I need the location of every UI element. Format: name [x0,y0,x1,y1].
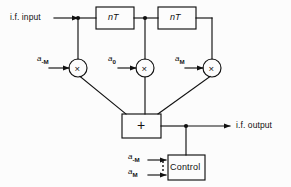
control-block-label: Control [170,163,200,172]
multiplier-3-glyph: × [209,64,215,74]
coefficient-label-2: a0 [108,55,116,65]
coefficient-sub-3: M [179,58,184,65]
control-input-label-1: a-M [128,153,139,163]
block-diagram-svg [0,0,291,187]
junction-dot-1 [76,16,80,20]
multiplier-2-glyph: × [142,64,148,74]
output-label: i.f. output [236,121,272,130]
delay-block-1-label: nT [108,13,119,22]
control-input-label-2: aM [128,168,138,178]
junction-dot-3 [184,124,188,128]
wire-mult1-to-sum [80,77,126,115]
control-ellipsis-dots [162,161,164,171]
input-label: i.f. input [10,13,41,22]
coefficient-label-1: a-M [37,55,48,65]
coefficient-label-3: aM [175,55,185,65]
junction-dot-2 [143,16,147,20]
wire-mult3-to-sum [158,77,210,115]
control-input-sub-2: M [132,171,137,178]
multiplier-1-glyph: × [75,64,81,74]
coefficient-sub-1: -M [41,58,48,65]
control-input-sub-1: -M [132,156,139,163]
summer-label: + [137,118,145,132]
figure-canvas: i.f. input i.f. output nT nT × × × a-M a… [0,0,291,187]
delay-block-2-label: nT [170,13,181,22]
coefficient-sub-2: 0 [112,58,115,65]
